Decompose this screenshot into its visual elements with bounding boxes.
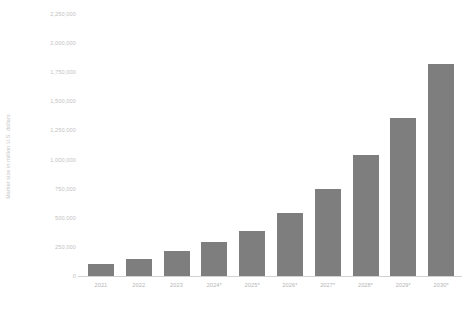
bar-slot: [126, 14, 152, 276]
bar-slot: [353, 14, 379, 276]
bar-slot: [239, 14, 265, 276]
x-axis-tick-labels: 2021202220232024*2025*2026*2027*2028*202…: [82, 281, 460, 295]
bar[interactable]: [201, 242, 227, 276]
bar[interactable]: [88, 264, 114, 276]
y-axis-tick-label: 1,250,000: [50, 127, 76, 133]
y-axis-tick-label: 500,000: [55, 215, 76, 221]
x-axis-tick-label: 2025*: [232, 281, 272, 289]
bar-slot: [315, 14, 341, 276]
x-axis-tick-label: 2021: [81, 281, 121, 289]
y-axis-tick-label: 2,250,000: [50, 11, 76, 17]
bar[interactable]: [353, 155, 379, 276]
x-axis-tick-label: 2030*: [421, 281, 461, 289]
bar-series: [82, 14, 460, 276]
x-axis-tick-label: 2026*: [270, 281, 310, 289]
bar[interactable]: [277, 213, 303, 276]
bar-slot: [201, 14, 227, 276]
y-axis-tick-labels: 0250,000500,000750,0001,000,0001,250,000…: [0, 0, 82, 313]
x-axis-tick-label: 2027*: [308, 281, 348, 289]
bar-slot: [164, 14, 190, 276]
bar[interactable]: [126, 259, 152, 276]
bar-slot: [277, 14, 303, 276]
bar-slot: [88, 14, 114, 276]
bar[interactable]: [164, 251, 190, 276]
y-axis-tick-label: 1,000,000: [50, 157, 76, 163]
y-axis-tick-label: 250,000: [55, 244, 76, 250]
y-axis-tick-label: 1,750,000: [50, 69, 76, 75]
y-axis-tick-label: 1,500,000: [50, 98, 76, 104]
y-axis-tick-label: 0: [73, 273, 76, 279]
y-axis-tick-label: 2,000,000: [50, 40, 76, 46]
bar[interactable]: [239, 231, 265, 276]
y-axis-tick-label: 750,000: [55, 186, 76, 192]
x-axis-tick-label: 2028*: [346, 281, 386, 289]
x-axis-tick-label: 2022: [119, 281, 159, 289]
bar[interactable]: [428, 64, 454, 276]
bar[interactable]: [315, 189, 341, 276]
bar[interactable]: [390, 118, 416, 276]
x-axis-tick-label: 2023: [157, 281, 197, 289]
bar-slot: [390, 14, 416, 276]
bar-slot: [428, 14, 454, 276]
bar-chart: Market size in million U.S. dollars 0250…: [0, 0, 475, 313]
x-axis-tick-label: 2024*: [194, 281, 234, 289]
x-axis-tick-label: 2029*: [383, 281, 423, 289]
